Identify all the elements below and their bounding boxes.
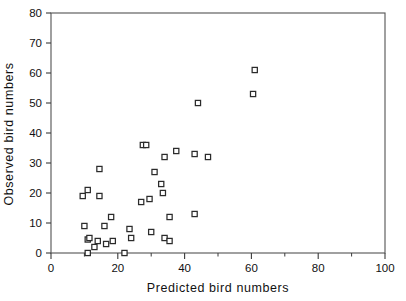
- data-point-9: [95, 238, 100, 243]
- y-tick-label-0: 0: [36, 247, 42, 259]
- data-point-33: [205, 154, 210, 159]
- data-point-17: [139, 199, 144, 204]
- data-point-14: [122, 250, 127, 255]
- y-axis-label: Observed bird numbers: [2, 62, 16, 205]
- y-axis-tick-labels: 01020304050607080: [29, 7, 42, 259]
- data-point-23: [159, 181, 164, 186]
- data-point-15: [127, 226, 132, 231]
- data-point-13: [110, 238, 115, 243]
- data-point-3: [97, 166, 102, 171]
- data-point-19: [144, 142, 149, 147]
- data-point-35: [252, 67, 257, 72]
- data-point-24: [160, 190, 165, 195]
- y-tick-label-5: 50: [29, 97, 42, 109]
- data-point-10: [102, 223, 107, 228]
- data-point-12: [109, 214, 114, 219]
- y-tick-label-1: 10: [29, 217, 42, 229]
- y-tick-label-6: 60: [29, 67, 42, 79]
- data-point-32: [195, 100, 200, 105]
- data-point-2: [97, 193, 102, 198]
- data-point-28: [167, 238, 172, 243]
- data-point-1: [85, 187, 90, 192]
- data-point-4: [82, 223, 87, 228]
- data-point-30: [192, 151, 197, 156]
- figure-background: [0, 0, 406, 301]
- data-point-31: [192, 211, 197, 216]
- x-tick-label-2: 40: [178, 262, 191, 274]
- data-point-11: [104, 241, 109, 246]
- y-tick-label-3: 30: [29, 157, 42, 169]
- y-tick-label-8: 80: [29, 7, 42, 19]
- data-point-27: [167, 214, 172, 219]
- data-point-29: [174, 148, 179, 153]
- data-point-25: [162, 154, 167, 159]
- data-point-7: [85, 250, 90, 255]
- x-tick-label-4: 80: [312, 262, 325, 274]
- y-tick-label-2: 20: [29, 187, 42, 199]
- data-point-21: [149, 229, 154, 234]
- x-tick-label-1: 20: [111, 262, 124, 274]
- data-point-6: [87, 235, 92, 240]
- x-tick-label-3: 60: [245, 262, 258, 274]
- y-tick-label-7: 70: [29, 37, 42, 49]
- data-point-8: [92, 244, 97, 249]
- data-point-20: [147, 196, 152, 201]
- x-tick-label-5: 100: [375, 262, 394, 274]
- data-point-0: [80, 193, 85, 198]
- y-tick-label-4: 40: [29, 127, 42, 139]
- data-point-16: [129, 235, 134, 240]
- data-point-34: [250, 91, 255, 96]
- scatter-plot-figure: 020406080100 01020304050607080 Predicted…: [0, 0, 406, 301]
- x-axis-label: Predicted bird numbers: [147, 281, 289, 295]
- data-point-22: [152, 169, 157, 174]
- x-tick-label-0: 0: [48, 262, 54, 274]
